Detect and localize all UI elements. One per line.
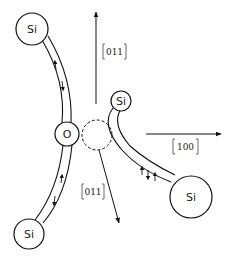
svg-text:Si: Si [186,191,196,204]
label-direction-down: 011 [82,184,104,199]
vacancy-dashed-circle [82,120,112,150]
atom-si-bottom-left: Si [14,219,44,249]
svg-text:Si: Si [27,23,37,36]
defect-diagram: Si O Si Si Si 011 100 011 [0,0,232,261]
spin-arrow-up-icon [61,176,62,183]
spin-arrow-down-icon [62,81,63,89]
svg-text:Si: Si [24,228,34,241]
atom-oxygen: O [55,122,79,146]
direction-arrow-down [99,150,119,223]
bond-bottom-left [35,145,72,223]
svg-text:011: 011 [106,47,123,57]
atom-si-small: Si [111,91,131,111]
label-direction-right: 100 [173,139,198,154]
bond-right [108,108,175,182]
svg-text:100: 100 [177,142,194,152]
svg-text:Si: Si [116,95,126,108]
svg-text:O: O [63,128,72,141]
atom-si-right: Si [170,176,212,218]
svg-text:011: 011 [84,187,101,197]
label-direction-up: 011 [103,44,126,59]
atom-si-top-left: Si [16,13,48,45]
bond-top-left [42,36,71,123]
spin-arrow-down-icon [54,196,55,204]
